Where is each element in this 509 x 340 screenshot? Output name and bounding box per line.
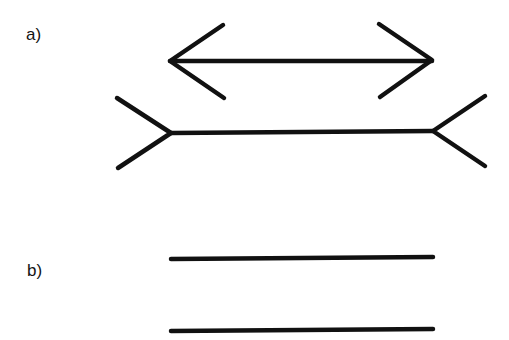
- illusion-drawing: [0, 0, 509, 340]
- line-bottom: [171, 329, 433, 331]
- shaft-line: [171, 131, 433, 133]
- arrow-inward-figure: [170, 24, 432, 98]
- arrow-outward-figure: [117, 96, 485, 168]
- right-fins: [433, 96, 485, 166]
- muller-lyer-figure: a) b): [0, 0, 509, 340]
- left-fins: [117, 98, 171, 168]
- line-top: [171, 257, 433, 259]
